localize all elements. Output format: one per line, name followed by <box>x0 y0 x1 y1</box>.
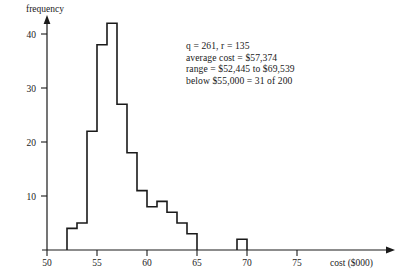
x-axis-title: cost ($000) <box>330 258 373 269</box>
annotation-block: q = 261, r = 135 average cost = $57,374 … <box>186 40 295 86</box>
x-tick-label-70: 70 <box>242 258 252 268</box>
x-tick-label-75: 75 <box>292 258 302 268</box>
y-axis-title: frequency <box>26 4 64 14</box>
y-tick-marks <box>41 34 47 196</box>
annotation-line-1: q = 261, r = 135 <box>186 40 295 52</box>
y-tick-label-40: 40 <box>27 30 37 40</box>
histogram-figure: 10 20 30 40 50 55 60 65 70 75 frequency … <box>0 0 404 270</box>
x-tick-label-55: 55 <box>92 258 102 268</box>
x-tick-label-65: 65 <box>192 258 202 268</box>
y-tick-label-30: 30 <box>27 84 37 94</box>
y-tick-label-10: 10 <box>27 192 37 202</box>
y-tick-label-20: 20 <box>27 138 37 148</box>
x-axis <box>42 247 395 254</box>
x-tick-label-60: 60 <box>142 258 152 268</box>
annotation-line-2: average cost = $57,374 <box>186 52 295 64</box>
annotation-line-4: below $55,000 = 31 of 200 <box>186 75 295 87</box>
x-tick-marks <box>47 250 297 256</box>
y-axis <box>44 15 51 250</box>
annotation-line-3: range = $52,445 to $69,539 <box>186 63 295 75</box>
x-tick-label-50: 50 <box>42 258 52 268</box>
